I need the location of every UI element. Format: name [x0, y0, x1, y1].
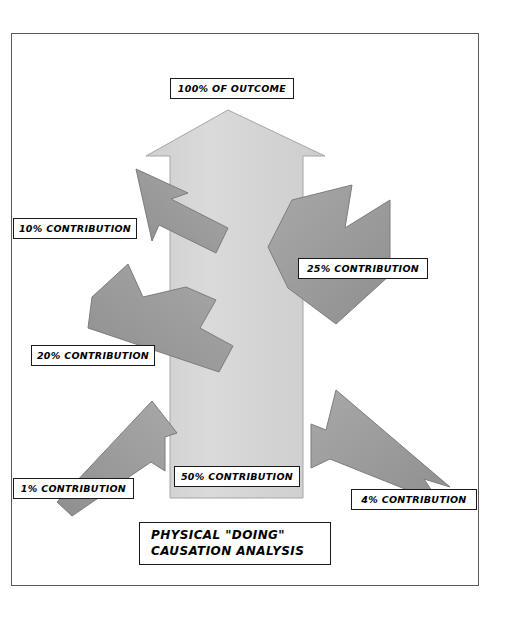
label-outcome: 100% OF OUTCOME	[170, 78, 294, 99]
diagram-title-line-1: PHYSICAL "DOING"	[151, 528, 285, 543]
label-contribution-twentyfive: 25% CONTRIBUTION	[298, 258, 428, 279]
label-contribution-fifty: 50% CONTRIBUTION	[174, 466, 300, 487]
label-contribution-four: 4% CONTRIBUTION	[351, 489, 477, 510]
label-contribution-ten: 10% CONTRIBUTION	[13, 218, 137, 239]
diagram-title-line-2: CAUSATION ANALYSIS	[151, 544, 304, 559]
label-contribution-one: 1% CONTRIBUTION	[13, 478, 134, 499]
contribution-arrow-four	[311, 390, 450, 503]
label-outcome-text: 100% OF OUTCOME	[178, 84, 286, 95]
diagram-title-box: PHYSICAL "DOING" CAUSATION ANALYSIS	[139, 522, 331, 565]
label-contribution-twenty: 20% CONTRIBUTION	[31, 345, 155, 366]
label-contribution-fifty-text: 50% CONTRIBUTION	[181, 472, 293, 483]
label-contribution-ten-text: 10% CONTRIBUTION	[19, 224, 131, 235]
label-contribution-four-text: 4% CONTRIBUTION	[361, 495, 466, 506]
diagram-canvas: 100% OF OUTCOME 10% CONTRIBUTION 20% CON…	[0, 0, 509, 625]
label-contribution-twentyfive-text: 25% CONTRIBUTION	[307, 264, 419, 275]
label-contribution-twenty-text: 20% CONTRIBUTION	[37, 351, 149, 362]
label-contribution-one-text: 1% CONTRIBUTION	[21, 484, 126, 495]
